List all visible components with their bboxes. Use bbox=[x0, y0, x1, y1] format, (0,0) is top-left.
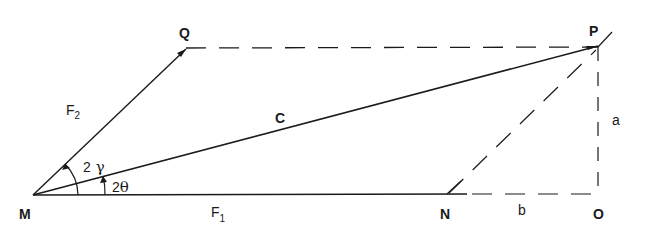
length-label-a: a bbox=[612, 112, 620, 128]
vector-c-line bbox=[33, 46, 598, 195]
dashed-q-to-p bbox=[186, 47, 598, 48]
vector-label-c: C bbox=[275, 110, 285, 126]
angle-label-theta: 2θ bbox=[112, 178, 129, 196]
angle-label-gamma: 2γ bbox=[83, 158, 105, 176]
length-label-b: b bbox=[518, 202, 526, 218]
point-label-q: Q bbox=[179, 25, 190, 41]
vector-f2-line bbox=[33, 49, 186, 195]
point-label-o: O bbox=[593, 206, 604, 222]
vector-f1-line bbox=[33, 194, 467, 195]
point-label-m: M bbox=[19, 206, 31, 222]
vector-label-f2: F2 bbox=[66, 102, 81, 121]
parallelogram-diagram: Q P M N O F2 F1 C 2γ 2θ a b bbox=[0, 0, 645, 235]
vector-label-f1: F1 bbox=[211, 204, 226, 224]
tick-at-p bbox=[598, 32, 612, 47]
tick-at-n bbox=[447, 181, 461, 194]
point-label-p: P bbox=[589, 23, 598, 39]
point-label-n: N bbox=[440, 206, 450, 222]
dashed-n-to-p bbox=[449, 50, 596, 193]
